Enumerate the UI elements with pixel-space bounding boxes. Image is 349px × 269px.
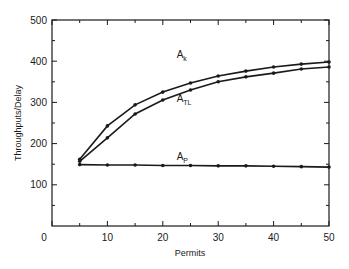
- series-label-a-p: AP: [177, 151, 189, 164]
- y-axis-title: Throughputs/Delay: [13, 84, 23, 161]
- y-tick-label: 400: [30, 56, 47, 67]
- series-lines: [78, 60, 331, 169]
- data-point: [161, 90, 165, 94]
- data-point: [78, 163, 82, 167]
- data-point: [106, 163, 110, 167]
- data-point: [327, 60, 331, 64]
- data-point: [216, 74, 220, 78]
- data-point: [133, 112, 137, 116]
- data-point: [272, 65, 276, 69]
- data-point: [189, 88, 193, 92]
- series-line-a-p: [80, 165, 329, 167]
- data-point: [244, 69, 248, 73]
- y-tick-label: 200: [30, 138, 47, 149]
- data-point: [189, 164, 193, 168]
- throughput-delay-chart: 10020030040050001020304050 AkATLAP Permi…: [0, 0, 349, 269]
- data-point: [300, 165, 304, 169]
- data-point: [272, 164, 276, 168]
- data-point: [216, 80, 220, 84]
- y-tick-label: 500: [30, 15, 47, 26]
- series-labels: AkATLAP: [177, 49, 192, 164]
- series-line-a-tl: [80, 67, 329, 161]
- data-point: [272, 71, 276, 75]
- data-point: [327, 65, 331, 69]
- x-tick-label: 20: [157, 232, 169, 243]
- data-point: [161, 98, 165, 102]
- data-point: [244, 75, 248, 79]
- x-axis-title: Permits: [175, 248, 206, 258]
- x-tick-label: 40: [268, 232, 280, 243]
- y-tick-label: 100: [30, 179, 47, 190]
- series-label-a-k: Ak: [177, 49, 188, 62]
- x-tick-label: 50: [323, 232, 335, 243]
- data-point: [189, 81, 193, 85]
- data-point: [300, 67, 304, 71]
- data-point: [106, 136, 110, 140]
- data-point: [216, 164, 220, 168]
- plot-frame: [52, 20, 329, 226]
- data-point: [133, 103, 137, 107]
- data-point: [78, 160, 82, 164]
- x-tick-label: 10: [102, 232, 114, 243]
- data-point: [161, 164, 165, 168]
- data-point: [244, 164, 248, 168]
- data-point: [106, 124, 110, 128]
- y-tick-label: 300: [30, 97, 47, 108]
- data-point: [327, 165, 331, 169]
- series-label-a-tl: ATL: [177, 93, 192, 106]
- x-tick-label: 0: [41, 232, 47, 243]
- data-point: [133, 163, 137, 167]
- series-line-a-k: [80, 62, 329, 159]
- x-tick-label: 30: [213, 232, 225, 243]
- data-point: [300, 62, 304, 66]
